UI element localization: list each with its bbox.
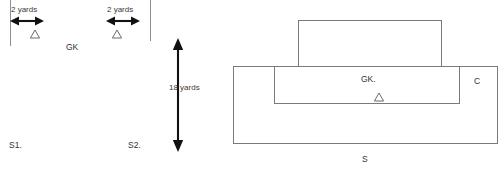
- player-label-s2: S2.: [128, 141, 141, 150]
- arrowhead-right: [35, 17, 44, 26]
- triangle-marker-right: [112, 30, 121, 38]
- diagram-canvas: 2 yards 2 yards GK S1. S2. 18 yards GK. …: [0, 0, 501, 173]
- measure-arrow-vertical: [173, 38, 183, 152]
- triangle-marker-left: [30, 30, 39, 38]
- arrowhead-down: [173, 140, 183, 152]
- arrowhead-right-2: [131, 17, 140, 26]
- measure-arrow-right: [106, 17, 140, 26]
- player-label-c: C: [474, 77, 480, 86]
- arrowhead-left-2: [106, 17, 115, 26]
- goal-shape: [299, 21, 442, 67]
- measure-label-right: 2 yards: [107, 6, 133, 14]
- player-label-gk-left: GK: [66, 43, 78, 52]
- measure-label-vertical: 18 yards: [169, 84, 200, 92]
- measure-arrow-left: [10, 17, 44, 26]
- arrowhead-up: [173, 38, 183, 50]
- six-yard-box-shape: [275, 66, 460, 104]
- triangle-marker-center: [374, 93, 383, 101]
- diagram-vector-layer: [0, 0, 501, 173]
- measure-label-left: 2 yards: [11, 6, 37, 14]
- player-label-gk-right: GK.: [361, 75, 376, 84]
- player-label-s1: S1.: [9, 141, 22, 150]
- arrowhead-left: [10, 17, 19, 26]
- player-label-s: S: [362, 155, 368, 164]
